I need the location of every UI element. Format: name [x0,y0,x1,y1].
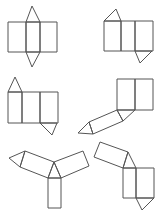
net-6 [94,142,154,210]
net-3-face [8,77,22,92]
net-4 [78,79,153,134]
net-5-face [54,151,89,178]
net-3-face [40,92,58,123]
net-1-face [40,22,57,52]
net-1-face [26,6,40,22]
net-2 [104,9,153,63]
net-4-face [78,122,93,134]
net-6-face [123,168,136,198]
net-2-face [104,9,121,21]
net-6-face [136,198,154,210]
net-2-face [135,21,153,51]
net-5-face [20,151,54,178]
net-1 [8,6,57,67]
net-2-face [121,21,135,51]
net-4-face [89,110,123,134]
net-2-face [135,51,152,63]
net-5-face [48,178,61,208]
net-1-face [26,22,40,52]
net-5 [9,151,89,208]
net-3-face [8,92,22,123]
net-4-face [135,79,153,110]
net-4-face [117,79,135,110]
net-1-face [26,52,40,67]
prism-nets-figure [0,0,161,216]
net-5-face [9,151,25,167]
net-1-face [8,22,26,52]
net-5-face [48,162,61,178]
net-2-face [104,21,121,51]
net-6-face [136,168,154,198]
net-6-face [94,142,128,168]
net-3-face [22,92,40,123]
net-6-face [123,152,136,168]
net-3-face [40,123,57,135]
net-3 [8,77,58,135]
